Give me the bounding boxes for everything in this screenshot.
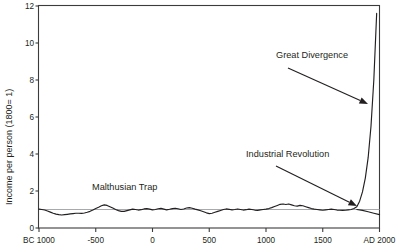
annotation-arrow-industrial-revolution [276, 166, 357, 206]
x-tick-label: 500 [202, 236, 216, 245]
annotation-label-industrial-revolution: Industrial Revolution [246, 149, 329, 159]
x-tick-label: BC 1000 [23, 236, 55, 245]
annotation-arrow-head [348, 199, 357, 206]
annotation-arrow-great-divergence [288, 68, 368, 104]
annotation-arrow-head [359, 97, 368, 104]
series-line-income-per-person [39, 13, 377, 215]
plot-frame [39, 6, 380, 229]
income-per-person-line-chart: Income per person (1800= 1) 024681012 BC… [0, 0, 399, 251]
annotation-label-malthusian-trap: Malthusian Trap [92, 182, 157, 192]
annotation-label-great-divergence: Great Divergence [276, 50, 348, 60]
y-tick-label: 6 [29, 113, 34, 122]
x-tick-label: 1000 [257, 236, 276, 245]
y-tick-label: 12 [25, 2, 35, 11]
x-tick-label: 0 [150, 236, 155, 245]
y-tick-label: 0 [29, 224, 34, 233]
axis-tick-marks [36, 6, 380, 232]
x-tick-label: 1500 [314, 236, 333, 245]
y-tick-label: 4 [29, 150, 34, 159]
x-tick-label: -500 [88, 236, 105, 245]
annotation-arrow-shaft [276, 166, 349, 202]
annotation-arrow-shaft [288, 68, 360, 101]
y-tick-label: 2 [29, 187, 34, 196]
x-tick-label: AD 2000 [364, 236, 396, 245]
y-axis-title: Income per person (1800= 1) [4, 89, 14, 205]
chart-figure: Income per person (1800= 1) 024681012 BC… [0, 0, 399, 251]
y-tick-label: 10 [25, 39, 35, 48]
y-tick-label: 8 [29, 76, 34, 85]
y-axis-tick-labels: 024681012 [25, 2, 35, 233]
x-axis-tick-labels: BC 1000-500050010001500AD 2000 [23, 236, 396, 245]
series-line-lower-branch [357, 210, 380, 215]
